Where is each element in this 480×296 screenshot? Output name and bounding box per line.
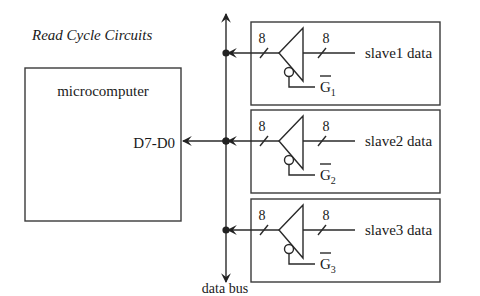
bus-width-right: 8 <box>323 208 330 223</box>
bus-junction <box>222 49 229 56</box>
slave-box <box>251 199 440 282</box>
microcomputer-block: microcomputer D7-D0 <box>25 68 181 221</box>
slave-1-block: 88slave1 dataG1 <box>222 22 440 105</box>
slave-box <box>251 110 440 193</box>
slave-2-block: 88slave2 dataG2 <box>222 110 440 193</box>
bus-junction <box>222 226 229 233</box>
bus-width-left: 8 <box>259 31 266 46</box>
bus-width-right: 8 <box>323 119 330 134</box>
bus-label: data bus <box>202 281 248 296</box>
bus-junction <box>222 137 229 144</box>
bus-width-left: 8 <box>259 208 266 223</box>
diagram-title: Read Cycle Circuits <box>31 27 152 43</box>
data-bus: data bus <box>183 14 248 296</box>
port-label: D7-D0 <box>133 135 175 151</box>
bus-width-right: 8 <box>323 31 330 46</box>
slave-data-label: slave1 data <box>365 45 432 61</box>
slave-data-label: slave3 data <box>365 222 432 238</box>
slave-3-block: 88slave3 dataG3 <box>222 199 440 282</box>
microcomputer-label: microcomputer <box>57 83 149 99</box>
slave-box <box>251 22 440 105</box>
read-cycle-diagram: Read Cycle Circuits microcomputer D7-D0 … <box>0 0 480 296</box>
slave-data-label: slave2 data <box>365 133 432 149</box>
bus-width-left: 8 <box>259 119 266 134</box>
